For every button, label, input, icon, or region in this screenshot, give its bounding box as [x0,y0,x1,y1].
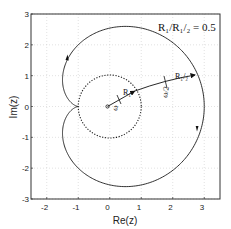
y-tick-label: 3 [25,10,30,19]
x-tick-label: 2 [168,203,173,212]
x-tick-labels: -2 -1 0 1 2 3 [41,203,205,212]
omega-half-label: ω/2 [160,85,171,98]
x-tick-label: -2 [41,203,49,212]
y-tick-label: 0 [25,103,30,112]
y-tick-label: 1 [25,72,30,81]
r12-label: R₁/₂ [175,72,188,81]
y-tick-label: -3 [22,195,30,204]
y-tick-label: -1 [22,133,30,142]
r1-label: R₁ [123,88,131,97]
cardioid-figure: -2 -1 0 1 2 3 3 2 1 0 -1 -2 -3 Re(z) Im(… [0,0,231,229]
y-tick-labels: 3 2 1 0 -1 -2 -3 [22,10,30,204]
grid-lines [31,14,220,199]
x-tick-label: -1 [72,203,80,212]
x-tick-label: 0 [105,203,110,212]
plot-frame [31,14,220,199]
y-tick-label: 2 [25,41,30,50]
x-axis-label: Re(z) [113,215,137,226]
omega-label: ω [110,105,120,112]
x-tick-label: 1 [137,203,142,212]
direction-arrow-down-icon [196,126,199,132]
ratio-annotation: R₁/R₁/₂ = 0.5 [158,21,216,33]
y-tick-label: -2 [22,164,30,173]
x-tick-label: 3 [200,203,205,212]
y-axis-label: Im(z) [8,96,19,119]
